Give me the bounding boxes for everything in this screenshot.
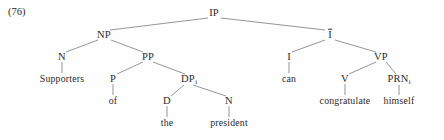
node-ip: IP (209, 8, 219, 19)
node-label: N (225, 95, 233, 106)
terminal-president: president (210, 118, 248, 128)
node-vp: VP (374, 52, 388, 63)
node-pp: PP (142, 52, 154, 63)
index-subscript: i (409, 78, 411, 85)
index-subscript: i (195, 78, 197, 85)
node-label: I (287, 51, 291, 62)
node-n: N (58, 52, 66, 63)
tree-edge (193, 85, 226, 96)
node-label: NP (97, 29, 111, 40)
node-label: president (210, 117, 248, 128)
terminal-the: the (161, 118, 174, 128)
node-label: IP (209, 7, 219, 18)
terminal-of: of (109, 96, 118, 106)
node-label: PRN (387, 73, 408, 84)
node-v: V (341, 74, 349, 85)
node-label: DP (181, 73, 195, 84)
node-label: N (58, 51, 66, 62)
tree-edge (349, 62, 376, 74)
node-label: Supporters (40, 73, 84, 84)
node-label: PP (142, 51, 154, 62)
node-ibar: I (328, 30, 332, 41)
node-label: the (161, 117, 174, 128)
node-dp: DPi (181, 74, 197, 85)
node-i: I (287, 52, 291, 63)
terminal-supporters: Supporters (40, 74, 84, 84)
node-label: P (110, 73, 116, 84)
node-label: can (282, 73, 296, 84)
node-label: of (109, 95, 118, 106)
terminal-himself: himself (384, 96, 415, 106)
tree-edge (221, 18, 325, 30)
tree-edge (66, 40, 98, 52)
node-label: congratulate (320, 95, 371, 106)
node-d: D (163, 96, 171, 107)
tree-edge (292, 40, 325, 52)
node-prn: PRNi (387, 74, 410, 85)
terminal-congratulate: congratulate (320, 96, 371, 106)
tree-edge (335, 40, 376, 52)
node-label: I (328, 30, 332, 41)
node-label: D (163, 95, 171, 106)
terminal-can: can (282, 74, 296, 84)
tree-edge (171, 85, 184, 96)
node-p: P (110, 74, 116, 85)
node-label: VP (374, 51, 388, 62)
tree-edge (110, 18, 208, 30)
node-np: NP (97, 30, 111, 41)
node-label: V (341, 73, 349, 84)
syntax-tree-figure: (76) IPNPINPPIVPPDPiVPRNiDNSupportersofc… (0, 0, 444, 140)
tree-edge (117, 62, 143, 74)
node-label: himself (384, 95, 415, 106)
tree-edge (111, 40, 143, 52)
node-nprez: N (225, 96, 233, 107)
